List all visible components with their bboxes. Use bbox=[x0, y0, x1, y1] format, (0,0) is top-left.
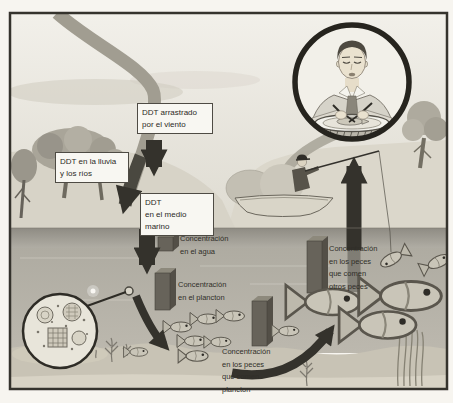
label-line: Concentración bbox=[178, 279, 226, 292]
label-concentration-fish-fish: Concentración en los peces que comen otr… bbox=[329, 243, 377, 293]
label-line: en el plancton bbox=[178, 292, 226, 305]
label-line: y los ríos bbox=[60, 168, 124, 180]
plankton-speck bbox=[125, 287, 133, 295]
label-line: DDT arrastrado bbox=[142, 107, 208, 119]
label-line: que comen bbox=[222, 371, 270, 384]
label-concentration-water: Concentración en el agua bbox=[180, 233, 228, 258]
label-line: Concentración bbox=[180, 233, 228, 246]
label-box-ddt-wind: DDT arrastrado por el viento bbox=[137, 103, 213, 134]
label-line: por el viento bbox=[142, 119, 208, 131]
label-line: que comen bbox=[329, 268, 377, 281]
label-concentration-plankton: Concentración en el plancton bbox=[178, 279, 226, 304]
light-glint bbox=[91, 289, 96, 294]
label-line: en los peces bbox=[222, 359, 270, 372]
ddt-cycle-figure: DDT arrastrado por el viento DDT en la l… bbox=[0, 0, 453, 403]
label-line: en los peces bbox=[329, 256, 377, 269]
man-eating-fish bbox=[295, 25, 409, 142]
label-box-ddt-rain: DDT en la lluvia y los ríos bbox=[55, 152, 129, 183]
label-line: otros peces bbox=[329, 281, 377, 294]
label-line: Concentración bbox=[329, 243, 377, 256]
hand bbox=[336, 111, 347, 119]
hand bbox=[358, 111, 369, 119]
illustration-canvas bbox=[0, 0, 453, 403]
mouth bbox=[349, 73, 355, 77]
label-concentration-fish-plankton: Concentración en los peces que comen pla… bbox=[222, 346, 270, 396]
water-surface-band bbox=[10, 228, 447, 248]
label-line: marino bbox=[145, 221, 209, 233]
label-line: DDT bbox=[145, 197, 209, 209]
label-line: en el medio bbox=[145, 209, 209, 221]
bar-concentration-fish-plankton bbox=[252, 296, 273, 346]
label-line: Concentración bbox=[222, 346, 270, 359]
bar-concentration-fish-fish bbox=[307, 236, 328, 293]
label-line: en el agua bbox=[180, 246, 228, 259]
label-line: DDT en la lluvia bbox=[60, 156, 124, 168]
label-box-ddt-marine: DDT en el medio marino bbox=[140, 193, 214, 236]
label-line: plancton bbox=[222, 384, 270, 397]
bar-concentration-plankton bbox=[155, 268, 176, 310]
